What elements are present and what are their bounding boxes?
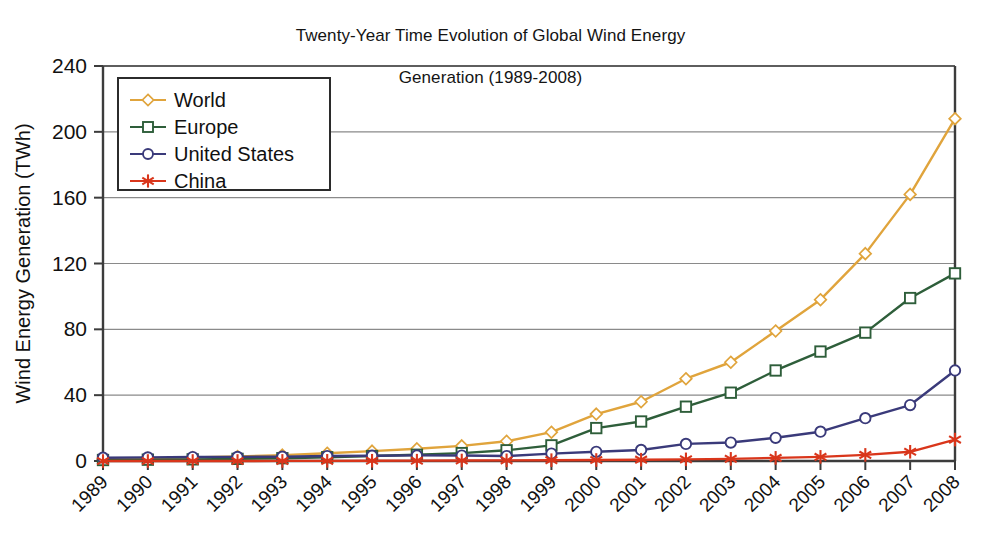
data-point-marker bbox=[815, 427, 825, 437]
data-point-marker bbox=[905, 400, 915, 410]
x-tick-label: 1990 bbox=[112, 471, 157, 516]
data-point-marker bbox=[590, 408, 602, 420]
legend-label: China bbox=[174, 170, 227, 192]
y-axis-title: Wind Energy Generation (TWh) bbox=[12, 123, 34, 403]
data-point-marker bbox=[726, 437, 736, 447]
y-tick-label: 120 bbox=[52, 252, 87, 275]
x-tick-label: 2000 bbox=[560, 471, 605, 516]
x-tick-label: 2001 bbox=[605, 471, 650, 516]
x-tick-label: 2003 bbox=[695, 471, 740, 516]
data-point-marker bbox=[726, 387, 736, 397]
legend-label: World bbox=[174, 89, 226, 111]
data-point-marker bbox=[950, 268, 960, 278]
x-tick-label: 2008 bbox=[919, 471, 964, 516]
x-tick-label: 1997 bbox=[426, 471, 471, 516]
chart-title-line-1: Twenty-Year Time Evolution of Global Win… bbox=[296, 26, 686, 45]
x-tick-label: 1993 bbox=[246, 471, 291, 516]
x-tick-label: 2006 bbox=[829, 471, 874, 516]
x-tick-label: 1991 bbox=[157, 471, 202, 516]
x-tick-label: 2007 bbox=[874, 471, 919, 516]
y-tick-label: 80 bbox=[64, 317, 87, 340]
y-tick-label: 0 bbox=[75, 449, 87, 472]
y-axis-title-text: Wind Energy Generation (TWh) bbox=[12, 123, 34, 403]
data-point-marker bbox=[143, 149, 153, 159]
data-point-marker bbox=[636, 416, 646, 426]
data-point-marker bbox=[635, 396, 647, 408]
data-point-marker bbox=[591, 423, 601, 433]
data-point-marker bbox=[905, 293, 915, 303]
legend: WorldEuropeUnited StatesChina bbox=[118, 78, 330, 192]
series-line bbox=[103, 273, 955, 460]
data-point-marker bbox=[949, 113, 961, 125]
y-axis-ticks bbox=[94, 66, 103, 461]
x-tick-label: 1999 bbox=[516, 471, 561, 516]
x-tick-label: 2005 bbox=[785, 471, 830, 516]
x-axis-ticks bbox=[103, 461, 955, 470]
legend-label: United States bbox=[174, 143, 294, 165]
legend-label: Europe bbox=[174, 116, 239, 138]
x-tick-label: 1995 bbox=[336, 471, 381, 516]
x-tick-label: 1996 bbox=[381, 471, 426, 516]
series-line bbox=[103, 370, 955, 457]
data-point-marker bbox=[770, 365, 780, 375]
data-point-marker bbox=[770, 433, 780, 443]
y-axis-tick-labels: 04080120160200240 bbox=[52, 54, 87, 472]
data-point-marker bbox=[681, 439, 691, 449]
y-tick-label: 40 bbox=[64, 383, 87, 406]
data-point-marker bbox=[950, 365, 960, 375]
data-point-marker bbox=[546, 426, 558, 438]
x-tick-label: 1994 bbox=[291, 471, 336, 516]
x-tick-label: 2002 bbox=[650, 471, 695, 516]
data-point-marker bbox=[860, 327, 870, 337]
chart-title: Twenty-Year Time Evolution of Global Win… bbox=[0, 4, 981, 88]
data-point-marker bbox=[680, 373, 692, 385]
y-tick-label: 200 bbox=[52, 120, 87, 143]
y-tick-label: 160 bbox=[52, 186, 87, 209]
series-china bbox=[97, 433, 961, 468]
data-point-marker bbox=[815, 346, 825, 356]
x-tick-label: 1992 bbox=[202, 471, 247, 516]
x-tick-label: 2004 bbox=[740, 471, 785, 516]
chart-title-line-2: Generation (1989-2008) bbox=[399, 68, 583, 87]
x-tick-label: 1998 bbox=[471, 471, 516, 516]
wind-energy-line-chart: Twenty-Year Time Evolution of Global Win… bbox=[0, 0, 981, 534]
x-tick-label: 1989 bbox=[67, 471, 112, 516]
data-point-marker bbox=[681, 401, 691, 411]
data-point-marker bbox=[860, 413, 870, 423]
data-point-marker bbox=[143, 122, 153, 132]
x-axis-tick-labels: 1989199019911992199319941995199619971998… bbox=[67, 471, 964, 516]
